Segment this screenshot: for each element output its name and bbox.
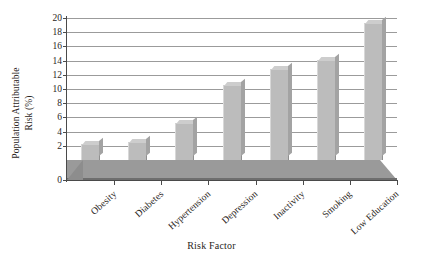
y-axis-tick-label: 4 [57, 127, 62, 137]
y-axis-tick [63, 46, 67, 47]
y-axis-tick [63, 18, 67, 19]
y-axis-tick-label: 10 [53, 84, 63, 94]
chart-floor-3d [67, 160, 397, 180]
y-axis-tick-label: 0 [57, 175, 62, 185]
bar [317, 60, 336, 160]
x-axis-category-label: Diabetes [132, 188, 165, 219]
y-axis-title: Population Attributable Risk (%) [10, 28, 36, 198]
gridline [67, 75, 397, 76]
y-axis-tick [63, 32, 67, 33]
bar-side-face [99, 138, 103, 156]
chart-floor-front-edge [67, 178, 397, 180]
y-axis-tick-label: 20 [53, 13, 63, 23]
y-axis-tick-label: 8 [57, 98, 62, 108]
y-axis-title-line2: Risk (%) [23, 28, 36, 198]
x-axis-category-label: Inactivity [271, 188, 306, 221]
gridline [67, 18, 397, 19]
x-axis-tick [303, 180, 304, 185]
gridline [67, 61, 397, 62]
y-axis-tick-label: 6 [57, 112, 62, 122]
bar [223, 85, 242, 160]
x-axis-tick [114, 180, 115, 185]
y-axis-tick [63, 180, 67, 181]
x-axis-tick [350, 180, 351, 185]
y-axis-tick-label: 14 [53, 56, 63, 66]
y-axis-tick-label: 12 [53, 70, 63, 80]
x-axis-category-label: Obesity [88, 188, 118, 217]
x-axis-category-label: Low Education [349, 188, 401, 236]
y-axis-tick [63, 117, 67, 118]
y-axis-tick [63, 89, 67, 90]
x-axis-tick [397, 180, 398, 185]
x-axis-tick [208, 180, 209, 185]
y-axis-tick-label: 2 [57, 141, 62, 151]
y-axis-tick [63, 146, 67, 147]
x-axis-tick [256, 180, 257, 185]
y-axis-title-line1: Population Attributable [11, 67, 21, 158]
y-axis-tick-label: 18 [53, 27, 63, 37]
x-axis-line [66, 180, 398, 181]
gridline [67, 32, 397, 33]
x-axis-category-label: Smoking [320, 188, 354, 220]
bar-side-face [288, 63, 292, 156]
bar [270, 69, 289, 160]
x-axis-tick [161, 180, 162, 185]
y-axis-line [66, 16, 67, 182]
bar-side-face [382, 17, 386, 156]
y-axis-tick [63, 103, 67, 104]
y-axis-tick [63, 61, 67, 62]
bar [128, 142, 147, 160]
bar [364, 23, 383, 160]
y-axis-tick-label: 16 [53, 41, 63, 51]
x-axis-category-label: Depression [219, 188, 259, 226]
bar [81, 144, 100, 160]
bar-side-face [146, 136, 150, 156]
bar-chart: Population Attributable Risk (%) 0246810… [0, 0, 423, 264]
bar-side-face [193, 117, 197, 156]
y-axis-tick [63, 132, 67, 133]
x-axis-title: Risk Factor [0, 240, 423, 251]
bar-side-face [335, 54, 339, 156]
bar [175, 123, 194, 160]
gridline [67, 46, 397, 47]
bar-side-face [241, 78, 245, 156]
plot-area: 02468101214161820 [67, 18, 397, 180]
x-axis-category-label: Hypertension [166, 188, 213, 232]
y-axis-tick [63, 75, 67, 76]
